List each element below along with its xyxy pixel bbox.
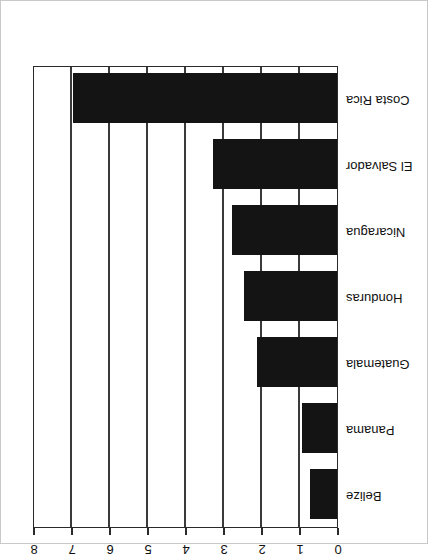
category-label-panama: Panama: [346, 423, 428, 437]
category-label-costa-rica: Costa Rica: [346, 93, 428, 107]
tick-label-7: 7: [60, 542, 84, 556]
category-label-guatemala: Guatemala: [346, 357, 428, 371]
bar-row: [32, 271, 337, 321]
bar-panama: [302, 403, 337, 453]
tick-label-1: 1: [288, 542, 312, 556]
bar-guatemala: [257, 337, 337, 387]
tick-label-8: 8: [22, 542, 46, 556]
tick-mark: [261, 528, 263, 535]
tick-mark: [71, 528, 73, 535]
tick-label-4: 4: [174, 542, 198, 556]
plot-area: [33, 66, 338, 528]
bar-row: [32, 205, 337, 255]
bar-row: [32, 469, 337, 519]
bar-chart-figure: 012345678 BelizePanamaGuatemalaHondurasN…: [5, 4, 425, 542]
tick-label-5: 5: [136, 542, 160, 556]
tick-mark: [109, 528, 111, 535]
tick-mark: [223, 528, 225, 535]
category-label-el-salvador: El Salvador: [346, 159, 428, 173]
bar-honduras: [244, 271, 337, 321]
tick-mark: [299, 528, 301, 535]
tick-label-6: 6: [98, 542, 122, 556]
tick-mark: [147, 528, 149, 535]
bar-el-salvador: [214, 139, 338, 189]
category-label-nicaragua: Nicaragua: [346, 225, 428, 239]
tick-label-3: 3: [212, 542, 236, 556]
tick-mark: [337, 528, 339, 535]
bar-row: [32, 337, 337, 387]
bar-row: [32, 403, 337, 453]
bar-belize: [310, 469, 337, 519]
bar-nicaragua: [233, 205, 338, 255]
category-label-honduras: Honduras: [346, 291, 428, 305]
bar-row: [32, 139, 337, 189]
tick-mark: [185, 528, 187, 535]
tick-label-0: 0: [326, 542, 350, 556]
category-label-belize: Belize: [346, 489, 428, 503]
bar-costa-rica: [73, 73, 337, 123]
tick-label-2: 2: [250, 542, 274, 556]
tick-mark: [33, 528, 35, 535]
bar-row: [32, 73, 337, 123]
